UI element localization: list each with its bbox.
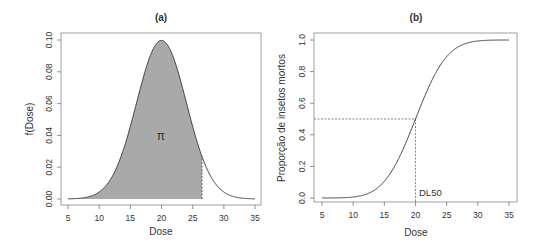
x-tick-label: 35 [504, 210, 514, 220]
x-tick-label: 10 [348, 210, 358, 220]
x-tick-label: 25 [442, 210, 452, 220]
y-tick-label: 0.00 [44, 190, 54, 207]
y-tick-label: 0.02 [44, 159, 54, 176]
x-tick-label: 30 [219, 213, 229, 223]
y-axis-label-b: Proporção de insetos mortos [276, 54, 287, 182]
y-tick-label: 0.06 [44, 95, 54, 112]
x-axis-label-b: Dose [404, 227, 428, 238]
y-tick-label: 0.0 [297, 192, 307, 204]
y-tick-label: 0.4 [297, 129, 307, 141]
y-tick-label: 1.0 [297, 34, 307, 46]
x-tick-label: 10 [94, 213, 104, 223]
shaded-area [68, 40, 202, 199]
y-tick-label: 0.10 [44, 31, 54, 48]
x-axis-b: 5101520253035 [320, 202, 514, 220]
y-axis-label-a: f(Dose) [24, 103, 35, 136]
x-tick-label: 15 [126, 213, 136, 223]
y-axis-a: 0.000.020.040.060.080.10 [44, 31, 61, 207]
panel-a-density: (a) 5101520253035 0.000.020.040.060.080.… [24, 12, 261, 237]
x-tick-label: 15 [380, 210, 390, 220]
y-tick-label: 0.04 [44, 127, 54, 144]
panel-a-title: (a) [155, 12, 167, 23]
y-tick-label: 0.08 [44, 63, 54, 80]
x-axis-a: 5101520253035 [66, 205, 260, 223]
x-tick-label: 25 [188, 213, 198, 223]
x-tick-label: 35 [250, 213, 260, 223]
x-axis-label-a: Dose [149, 226, 173, 237]
panel-b-proportion: (b) 5101520253035 0.00.20.40.60.81.0 Dos… [276, 12, 517, 238]
y-tick-label: 0.2 [297, 160, 307, 172]
x-tick-label: 20 [411, 210, 421, 220]
x-tick-label: 30 [473, 210, 483, 220]
x-tick-label: 5 [66, 213, 71, 223]
y-tick-label: 0.8 [297, 65, 307, 77]
figure: (a) 5101520253035 0.000.020.040.060.080.… [0, 0, 543, 250]
y-axis-b: 0.00.20.40.60.81.0 [297, 34, 314, 204]
x-tick-label: 5 [320, 210, 325, 220]
y-tick-label: 0.6 [297, 97, 307, 109]
x-tick-label: 20 [157, 213, 167, 223]
pi-annotation: π [157, 129, 165, 143]
dl50-annotation: DL50 [419, 187, 442, 198]
panel-b-title: (b) [410, 12, 423, 23]
